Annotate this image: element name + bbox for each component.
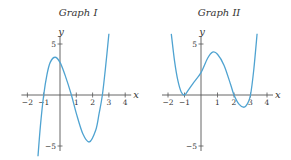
x-axis-label: x — [275, 89, 281, 100]
figure: Graph Ixy−2−112345−5Graph IIxy−2−112345−… — [0, 0, 291, 160]
chart-title: Graph II — [198, 7, 242, 18]
x-tick-label: 3 — [107, 98, 112, 107]
x-tick-label: 4 — [123, 98, 128, 107]
y-tick-label: −5 — [186, 142, 197, 151]
y-tick-label: 5 — [192, 40, 197, 49]
y-tick-label: 5 — [51, 40, 56, 49]
graph-2: Graph IIxy−2−112345−5 — [162, 7, 281, 151]
graph-1: Graph Ixy−2−112345−5 — [21, 7, 139, 156]
x-tick-label: −1 — [179, 98, 190, 107]
x-axis-label: x — [133, 89, 139, 100]
y-axis-label: y — [57, 26, 64, 37]
x-tick-label: 1 — [215, 98, 220, 107]
x-tick-label: 4 — [265, 98, 270, 107]
x-tick-label: 2 — [90, 98, 95, 107]
chart-title: Graph I — [59, 7, 99, 18]
x-tick-label: −2 — [22, 98, 33, 107]
x-tick-label: −2 — [162, 98, 173, 107]
y-axis-label: y — [198, 26, 205, 37]
y-tick-label: −5 — [45, 142, 56, 151]
